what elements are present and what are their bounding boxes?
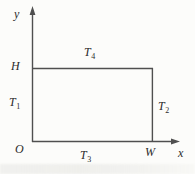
left-boundary-label: T1 xyxy=(9,96,20,111)
height-label: H xyxy=(11,60,20,72)
bottom-boundary-label: T3 xyxy=(80,149,91,164)
right-boundary-label: T2 xyxy=(158,100,169,115)
y-axis-arrowhead-icon xyxy=(30,6,36,15)
diagram-canvas: y x O H W T4 T1 T2 T3 xyxy=(0,0,195,174)
x-axis-arrowhead-icon xyxy=(171,139,180,145)
y-axis-label: y xyxy=(14,8,19,20)
right-boundary-subscript: 2 xyxy=(165,106,169,115)
top-boundary-symbol: T xyxy=(84,45,91,59)
top-boundary-subscript: 4 xyxy=(91,52,95,61)
right-boundary-symbol: T xyxy=(158,99,165,113)
left-boundary-symbol: T xyxy=(9,95,16,109)
x-axis-label: x xyxy=(178,147,183,159)
left-boundary-subscript: 1 xyxy=(16,102,20,111)
origin-label: O xyxy=(15,143,24,155)
bottom-boundary-symbol: T xyxy=(80,148,87,162)
bottom-boundary-subscript: 3 xyxy=(87,155,91,164)
axes-and-rectangle xyxy=(0,0,195,174)
width-label: W xyxy=(145,146,155,158)
top-boundary-label: T4 xyxy=(84,46,95,61)
